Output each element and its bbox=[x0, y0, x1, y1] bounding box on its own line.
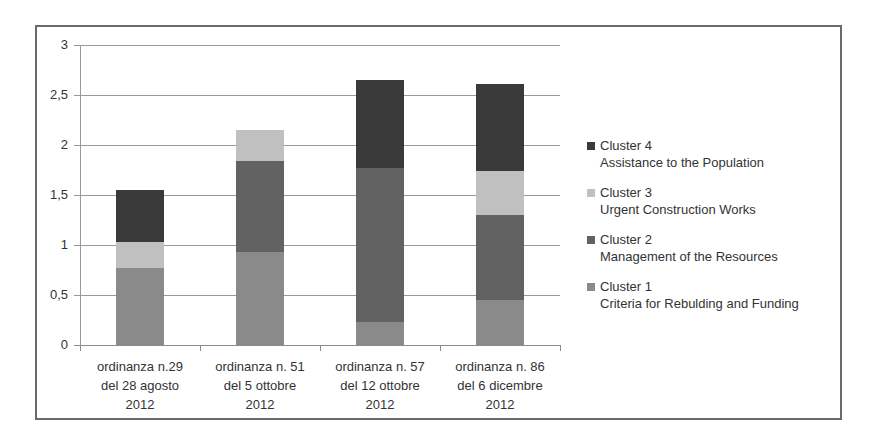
y-tick-label: 1,5 bbox=[28, 188, 68, 202]
x-tick-label: ordinanza n. 86del 6 dicembre2012 bbox=[440, 357, 560, 414]
stacked-bar bbox=[116, 190, 164, 345]
x-tick bbox=[440, 345, 441, 351]
bar-segment-cluster-2 bbox=[356, 168, 404, 322]
bar-segment-cluster-4 bbox=[356, 80, 404, 168]
legend: Cluster 4Assistance to the PopulationClu… bbox=[587, 138, 837, 326]
legend-description: Criteria for Rebulding and Funding bbox=[600, 296, 799, 312]
legend-title: Cluster 1 bbox=[600, 279, 652, 295]
x-tick bbox=[200, 345, 201, 351]
legend-description: Assistance to the Population bbox=[600, 155, 764, 171]
legend-item: Cluster 1Criteria for Rebulding and Fund… bbox=[587, 279, 837, 326]
stacked-bar bbox=[356, 80, 404, 345]
legend-item: Cluster 4Assistance to the Population bbox=[587, 138, 837, 185]
legend-swatch-icon bbox=[587, 189, 595, 197]
bar-segment-cluster-1 bbox=[236, 252, 284, 345]
y-tick-label: 2 bbox=[28, 138, 68, 152]
x-tick-label: ordinanza n. 51del 5 ottobre2012 bbox=[200, 357, 320, 414]
legend-item: Cluster 3Urgent Construction Works bbox=[587, 185, 837, 232]
bar-segment-cluster-4 bbox=[116, 190, 164, 242]
bar-segment-cluster-2 bbox=[476, 215, 524, 300]
bar-segment-cluster-1 bbox=[356, 322, 404, 345]
legend-swatch-icon bbox=[587, 142, 595, 150]
legend-swatch-icon bbox=[587, 283, 595, 291]
x-axis bbox=[74, 345, 560, 346]
stacked-bar bbox=[476, 84, 524, 345]
y-tick-label: 0 bbox=[28, 338, 68, 352]
y-tick-label: 3 bbox=[28, 38, 68, 52]
x-tick bbox=[560, 345, 561, 351]
bar-segment-cluster-3 bbox=[476, 171, 524, 215]
y-tick-label: 1 bbox=[28, 238, 68, 252]
y-tick-label: 0,5 bbox=[28, 288, 68, 302]
legend-description: Management of the Resources bbox=[600, 249, 778, 265]
x-tick bbox=[80, 345, 81, 351]
bar-segment-cluster-1 bbox=[476, 300, 524, 345]
x-tick bbox=[320, 345, 321, 351]
legend-title: Cluster 3 bbox=[600, 185, 652, 201]
x-tick-label: ordinanza n. 57del 12 ottobre2012 bbox=[320, 357, 440, 414]
plot-area: 00,511,522,53 bbox=[80, 45, 560, 345]
legend-title: Cluster 2 bbox=[600, 232, 652, 248]
gridline bbox=[74, 45, 560, 46]
bar-segment-cluster-1 bbox=[116, 268, 164, 345]
x-tick-label: ordinanza n.29del 28 agosto2012 bbox=[80, 357, 200, 414]
bar-segment-cluster-3 bbox=[236, 130, 284, 161]
legend-title: Cluster 4 bbox=[600, 138, 652, 154]
legend-description: Urgent Construction Works bbox=[600, 202, 756, 218]
stacked-bar bbox=[236, 130, 284, 345]
bar-segment-cluster-2 bbox=[236, 161, 284, 252]
legend-swatch-icon bbox=[587, 236, 595, 244]
bar-segment-cluster-4 bbox=[476, 84, 524, 171]
bar-segment-cluster-3 bbox=[116, 242, 164, 268]
y-tick-label: 2,5 bbox=[28, 88, 68, 102]
legend-item: Cluster 2Management of the Resources bbox=[587, 232, 837, 279]
